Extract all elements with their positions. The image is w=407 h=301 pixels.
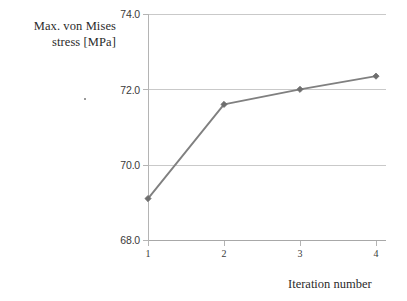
- x-tick-label-4: 4: [366, 248, 386, 259]
- y-tick-label-70: 70.0: [104, 159, 140, 171]
- y-tick-mark-74: [143, 14, 149, 15]
- y-tick-label-68: 68.0: [104, 234, 140, 246]
- x-tick-mark-1: [148, 241, 149, 246]
- y-tick-mark-70: [143, 165, 149, 166]
- y-axis-line: [148, 14, 149, 241]
- x-tick-mark-3: [300, 241, 301, 246]
- x-tick-label-1: 1: [138, 248, 158, 259]
- x-tick-label-3: 3: [290, 248, 310, 259]
- x-axis-title: Iteration number: [288, 277, 372, 292]
- x-axis-line: [148, 240, 386, 241]
- stray-mark: [84, 98, 86, 100]
- y-axis-title-line-1: Max. von Mises: [8, 18, 116, 34]
- y-tick-label-72: 72.0: [104, 84, 140, 96]
- chart-figure: Max. von Mises stress [MPa] 74.0 72.0 70…: [0, 0, 407, 301]
- plot-area: [148, 14, 386, 240]
- gridline-70: [148, 165, 386, 166]
- y-axis-title-line-2: stress [MPa]: [8, 34, 116, 50]
- y-axis-title: Max. von Mises stress [MPa]: [8, 18, 116, 50]
- y-tick-mark-72: [143, 89, 149, 90]
- x-tick-mark-2: [224, 241, 225, 246]
- gridline-74: [148, 14, 386, 15]
- gridline-72: [148, 89, 386, 90]
- x-tick-mark-4: [376, 241, 377, 246]
- y-tick-label-74: 74.0: [104, 8, 140, 20]
- x-tick-label-2: 2: [214, 248, 234, 259]
